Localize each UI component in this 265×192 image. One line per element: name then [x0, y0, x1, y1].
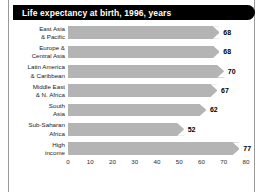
bar-category-label: Latin America& Caribbean — [10, 63, 65, 80]
bar-value-label: 77 — [243, 145, 251, 152]
plot-area: East Asia& Pacific68Europe &Central Asia… — [10, 24, 254, 154]
chart-title: Life expectancy at birth, 1996, years — [22, 8, 171, 18]
x-axis-tick-label: 20 — [109, 158, 116, 165]
x-axis-tick-label: 10 — [87, 158, 94, 165]
bar-track: 62 — [68, 104, 246, 117]
bar-category-label: East Asia& Pacific — [10, 24, 65, 41]
bar — [68, 142, 239, 155]
chart-page: Life expectancy at birth, 1996, years Ea… — [0, 0, 265, 192]
bar — [68, 46, 219, 59]
bar-track: 77 — [68, 142, 246, 155]
bar-category-label: Middle East& N. Africa — [10, 82, 65, 99]
bar-category-label: Sub-SaharanAfrica — [10, 121, 65, 138]
bar-row: Latin America& Caribbean70 — [10, 63, 254, 80]
page-frame-left — [0, 0, 9, 192]
bar-row: Sub-SaharanAfrica52 — [10, 121, 254, 138]
bar-category-label: SouthAsia — [10, 102, 65, 119]
bar — [68, 26, 219, 39]
bar-category-label: Europe &Central Asia — [10, 43, 65, 60]
bar-value-label: 70 — [228, 68, 236, 75]
bar-track: 67 — [68, 84, 246, 97]
x-axis-tick-label: 60 — [198, 158, 205, 165]
page-frame-right — [254, 0, 265, 192]
bar-track: 70 — [68, 65, 246, 78]
bar-value-label: 52 — [188, 126, 196, 133]
bar-rows: East Asia& Pacific68Europe &Central Asia… — [10, 24, 254, 160]
bar — [68, 65, 224, 78]
x-axis-tick-label: 70 — [220, 158, 227, 165]
bar — [68, 123, 184, 136]
x-axis-tick-label: 50 — [176, 158, 183, 165]
bar-track: 68 — [68, 46, 246, 59]
x-axis: 01020304050607080 — [68, 158, 246, 170]
bar-row: Highincome77 — [10, 140, 254, 157]
bar-row: East Asia& Pacific68 — [10, 24, 254, 41]
bar-row: Middle East& N. Africa67 — [10, 82, 254, 99]
bar — [68, 104, 206, 117]
bar-track: 68 — [68, 26, 246, 39]
bar-row: SouthAsia62 — [10, 102, 254, 119]
bar-row: Europe &Central Asia68 — [10, 43, 254, 60]
bar-category-label: Highincome — [10, 140, 65, 157]
bar-value-label: 62 — [210, 106, 218, 113]
x-axis-tick-label: 0 — [66, 158, 69, 165]
bar-track: 52 — [68, 123, 246, 136]
x-axis-tick-label: 30 — [131, 158, 138, 165]
bar — [68, 84, 217, 97]
x-axis-tick-label: 80 — [243, 158, 250, 165]
bar-value-label: 67 — [221, 87, 229, 94]
chart-title-bar: Life expectancy at birth, 1996, years — [13, 5, 255, 20]
chart-sheet: Life expectancy at birth, 1996, years Ea… — [10, 0, 254, 192]
x-axis-tick-label: 40 — [154, 158, 161, 165]
bar-value-label: 68 — [223, 29, 231, 36]
bar-value-label: 68 — [223, 48, 231, 55]
